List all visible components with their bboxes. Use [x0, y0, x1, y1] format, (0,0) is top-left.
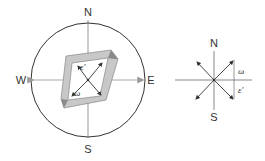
center-point-right	[213, 79, 215, 81]
nw-arrow	[197, 62, 214, 80]
center-point	[87, 79, 90, 82]
east-label: E	[147, 74, 154, 86]
sw-arrow	[196, 80, 214, 99]
north-label: N	[84, 6, 92, 18]
diagram-canvas: N S W E ε' ω N S ω ε'	[0, 0, 265, 161]
west-label: W	[16, 74, 27, 86]
ne-arrow-right	[214, 61, 233, 80]
left-compass-diagram: N S W E ε' ω	[16, 6, 155, 155]
se-arrow-right	[214, 80, 233, 99]
omega-symbol-right: ω	[238, 66, 244, 76]
rotated-frame	[61, 50, 118, 108]
omega-symbol: ω	[74, 88, 80, 98]
epsilon-symbol-right: ε'	[238, 85, 245, 95]
south-label: S	[84, 143, 91, 155]
south-label-right: S	[210, 111, 217, 123]
north-label-right: N	[210, 37, 218, 49]
right-compass-diagram: N S ω ε'	[175, 37, 252, 123]
